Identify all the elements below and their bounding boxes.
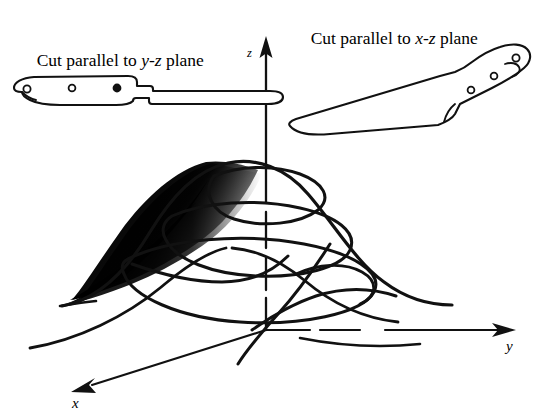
y-axis-label: y	[504, 338, 513, 354]
right-knife-body	[289, 45, 530, 135]
right-knife	[289, 45, 530, 135]
x-axis-shaft	[92, 330, 266, 385]
right-cut-label-var2: z	[428, 28, 436, 48]
left-knife-rivet-3	[113, 84, 120, 91]
left-cut-label-var2: z	[154, 50, 162, 70]
left-knife-rivet-2	[69, 85, 76, 92]
z-axis-label: z	[246, 46, 252, 60]
left-knife	[14, 76, 283, 105]
right-cut-label-var1: x	[414, 28, 423, 48]
right-cut-label-suffix: plane	[436, 28, 479, 48]
left-cut-label-prefix: Cut parallel to	[37, 50, 142, 70]
right-knife-rivet-1	[468, 87, 475, 94]
left-cut-label: Cut parallel to y-z plane	[6, 50, 226, 70]
left-cut-label-suffix: plane	[162, 50, 205, 70]
right-knife-rivet-2	[491, 73, 498, 80]
right-knife-rivet-3	[512, 54, 519, 61]
cross-section-profile-xz	[238, 244, 330, 364]
left-knife-rivet-1	[23, 85, 30, 92]
right-cut-label: Cut parallel to x-z plane	[280, 28, 500, 48]
left-cut-label-var1: y	[139, 50, 149, 70]
trailing-curve-right	[300, 338, 420, 346]
figure-canvas: z y x	[0, 0, 548, 412]
right-cut-label-prefix: Cut parallel to	[311, 28, 416, 48]
surface-diagram-svg: z y x	[0, 0, 548, 412]
x-axis-label: x	[71, 395, 79, 411]
x-axis: x	[71, 330, 266, 411]
left-knife-body	[14, 76, 283, 105]
